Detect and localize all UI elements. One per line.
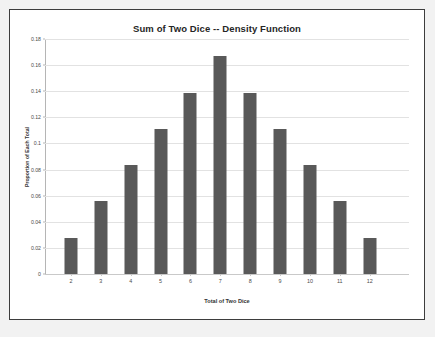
bar xyxy=(274,129,287,274)
plot-area: 00.020.040.060.080.10.120.140.160.18 234… xyxy=(45,39,409,274)
bar xyxy=(94,201,107,274)
y-tick-label: 0.14 xyxy=(31,88,41,94)
x-tick-mark xyxy=(161,274,162,276)
chart-page: Sum of Two Dice -- Density Function Prop… xyxy=(0,0,435,337)
bar xyxy=(184,93,197,274)
y-tick-label: 0.1 xyxy=(34,140,41,146)
x-tick-label: 2 xyxy=(69,278,72,284)
x-tick-mark xyxy=(101,274,102,276)
y-tick-label: 0.12 xyxy=(31,114,41,120)
gridline xyxy=(45,143,409,144)
gridline xyxy=(45,117,409,118)
x-axis-line xyxy=(45,274,409,275)
chart-title: Sum of Two Dice -- Density Function xyxy=(10,23,424,34)
y-tick-mark xyxy=(43,39,45,40)
bar xyxy=(124,165,137,274)
x-tick-label: 7 xyxy=(219,278,222,284)
bar xyxy=(303,165,316,274)
x-tick-mark xyxy=(280,274,281,276)
y-tick-label: 0.08 xyxy=(31,167,41,173)
y-tick-mark xyxy=(43,117,45,118)
x-tick-mark xyxy=(131,274,132,276)
y-tick-mark xyxy=(43,221,45,222)
y-tick-label: 0.18 xyxy=(31,36,41,42)
x-tick-mark xyxy=(340,274,341,276)
bar xyxy=(214,56,227,274)
bar xyxy=(154,129,167,274)
x-tick-label: 10 xyxy=(307,278,313,284)
gridline xyxy=(45,196,409,197)
y-tick-mark xyxy=(43,169,45,170)
gridline xyxy=(45,39,409,40)
gridline xyxy=(45,65,409,66)
bar xyxy=(363,238,376,274)
y-tick-mark xyxy=(43,195,45,196)
gridline xyxy=(45,170,409,171)
y-tick-label: 0.04 xyxy=(31,219,41,225)
x-tick-mark xyxy=(190,274,191,276)
x-tick-mark xyxy=(250,274,251,276)
y-tick-mark xyxy=(43,65,45,66)
y-axis-title-text: Proportion of Each Total xyxy=(24,126,30,186)
y-tick-mark xyxy=(43,274,45,275)
gridline xyxy=(45,91,409,92)
x-tick-mark xyxy=(220,274,221,276)
x-tick-label: 6 xyxy=(189,278,192,284)
x-tick-label: 3 xyxy=(99,278,102,284)
x-tick-label: 4 xyxy=(129,278,132,284)
bar xyxy=(64,238,77,274)
bar xyxy=(244,93,257,274)
x-axis-title: Total of Two Dice xyxy=(45,298,409,304)
x-tick-mark xyxy=(370,274,371,276)
y-tick-label: 0.02 xyxy=(31,245,41,251)
x-tick-label: 12 xyxy=(367,278,373,284)
y-tick-mark xyxy=(43,247,45,248)
x-tick-label: 9 xyxy=(279,278,282,284)
x-tick-label: 5 xyxy=(159,278,162,284)
x-tick-label: 11 xyxy=(337,278,343,284)
x-tick-label: 8 xyxy=(249,278,252,284)
y-tick-label: 0.06 xyxy=(31,193,41,199)
y-axis-title: Proportion of Each Total xyxy=(22,39,32,274)
bar xyxy=(333,201,346,274)
y-tick-label: 0 xyxy=(38,271,41,277)
chart-frame: Sum of Two Dice -- Density Function Prop… xyxy=(9,9,425,320)
x-tick-mark xyxy=(310,274,311,276)
y-tick-mark xyxy=(43,91,45,92)
y-tick-mark xyxy=(43,143,45,144)
x-tick-mark xyxy=(71,274,72,276)
y-tick-label: 0.16 xyxy=(31,62,41,68)
